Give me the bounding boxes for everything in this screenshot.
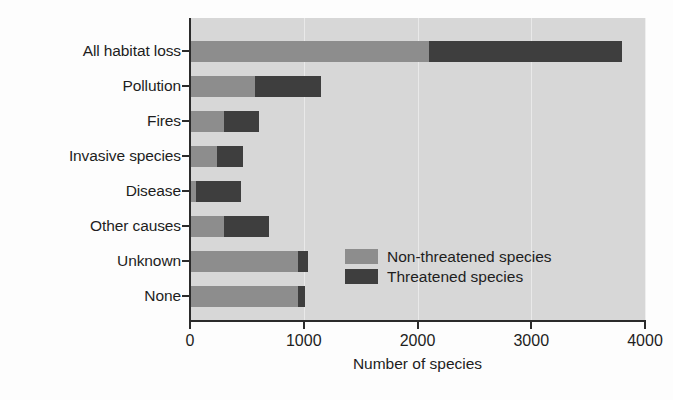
bar-row[interactable] — [190, 76, 645, 97]
bar-segment-non-threatened[interactable] — [190, 251, 298, 272]
x-axis-tick — [644, 320, 646, 329]
y-axis-line — [189, 18, 191, 321]
x-axis-tick-label: 3000 — [513, 332, 549, 350]
bar-segment-threatened[interactable] — [196, 181, 241, 202]
category-label-invasive-species: Invasive species — [69, 148, 181, 164]
bar-segment-threatened[interactable] — [217, 146, 243, 167]
legend-item-non-threatened: Non-threatened species — [345, 246, 552, 266]
bar-segment-non-threatened[interactable] — [190, 111, 224, 132]
legend-swatch-non-threatened-icon — [345, 249, 378, 264]
category-label-all-habitat-loss: All habitat loss — [83, 43, 181, 59]
bar-segment-non-threatened[interactable] — [190, 41, 429, 62]
x-axis-tick — [303, 320, 305, 329]
legend-swatch-threatened-icon — [345, 269, 378, 284]
bar-row[interactable] — [190, 286, 645, 307]
gridline — [304, 18, 305, 320]
legend-item-threatened: Threatened species — [345, 266, 552, 286]
bar-segment-non-threatened[interactable] — [190, 216, 224, 237]
bar-segment-non-threatened[interactable] — [190, 286, 298, 307]
y-axis-category-labels: All habitat lossPollutionFiresInvasive s… — [0, 0, 181, 400]
bar-segment-threatened[interactable] — [224, 216, 269, 237]
bar-segment-threatened[interactable] — [298, 251, 308, 272]
bar-row[interactable] — [190, 146, 645, 167]
bar-row[interactable] — [190, 41, 645, 62]
legend-label-non-threatened: Non-threatened species — [387, 248, 552, 265]
chart-legend: Non-threatened species Threatened specie… — [345, 246, 552, 286]
bar-segment-threatened[interactable] — [429, 41, 622, 62]
category-label-other-causes: Other causes — [90, 218, 181, 234]
bar-row[interactable] — [190, 181, 645, 202]
bar-segment-non-threatened[interactable] — [190, 146, 217, 167]
category-label-fires: Fires — [147, 113, 181, 129]
legend-label-threatened: Threatened species — [387, 268, 523, 285]
bar-segment-threatened[interactable] — [224, 111, 259, 132]
bar-row[interactable] — [190, 216, 645, 237]
gridline — [645, 18, 646, 320]
category-label-pollution: Pollution — [122, 78, 181, 94]
stacked-bar-chart: All habitat lossPollutionFiresInvasive s… — [0, 0, 673, 400]
x-axis-tick — [530, 320, 532, 329]
x-axis-tick-label: 4000 — [627, 332, 663, 350]
x-axis-tick — [417, 320, 419, 329]
x-axis-tick-label: 0 — [186, 332, 195, 350]
x-axis-tick — [189, 320, 191, 329]
x-axis-title: Number of species — [190, 355, 645, 373]
bar-segment-non-threatened[interactable] — [190, 76, 255, 97]
bar-row[interactable] — [190, 111, 645, 132]
x-axis-tick-label: 2000 — [400, 332, 436, 350]
category-label-disease: Disease — [126, 183, 181, 199]
category-label-unknown: Unknown — [117, 253, 181, 269]
bar-segment-threatened[interactable] — [255, 76, 321, 97]
bar-segment-threatened[interactable] — [298, 286, 305, 307]
x-axis-tick-label: 1000 — [286, 332, 322, 350]
category-label-none: None — [144, 288, 181, 304]
